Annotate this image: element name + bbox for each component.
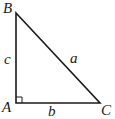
vertex-label-b: B <box>3 0 12 16</box>
triangle-outline <box>16 13 100 103</box>
vertex-label-c: C <box>101 102 112 118</box>
vertex-label-a: A <box>1 99 12 115</box>
right-angle-marker <box>16 97 22 103</box>
side-label-c: c <box>4 51 11 67</box>
right-triangle-diagram: B A C c a b <box>0 0 115 119</box>
side-label-a: a <box>70 50 78 66</box>
side-label-b: b <box>48 103 56 119</box>
